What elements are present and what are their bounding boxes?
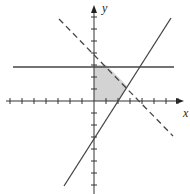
y-axis-label: y bbox=[101, 1, 108, 15]
coordinate-graph: y x bbox=[0, 0, 190, 194]
y-axis-arrow-icon bbox=[91, 5, 97, 13]
x-axis-label: x bbox=[182, 106, 189, 120]
x-axis-arrow-icon bbox=[176, 98, 184, 104]
shaded-region bbox=[94, 65, 128, 101]
line-decreasing-dashed bbox=[59, 19, 173, 136]
line-increasing bbox=[64, 18, 171, 186]
